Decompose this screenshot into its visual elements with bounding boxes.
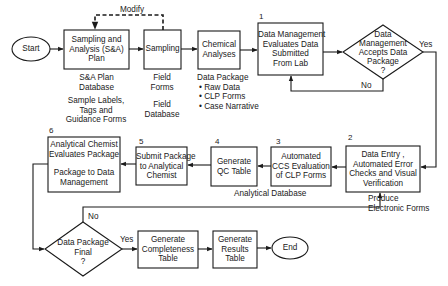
box5-label: Submit Package to Analytical Chemist [136, 152, 187, 181]
step-number-3: 3 [276, 137, 280, 146]
decision1-label: Data Management Accepts Data Package ? [343, 30, 423, 75]
sa-db-annotation: S&A Plan Database [64, 73, 129, 92]
box4-label: Generate QC Table [211, 157, 257, 176]
decision2-label: Data Package Final ? [45, 238, 121, 267]
box2-label: Data Entry , Automated Error Checks and … [346, 150, 420, 188]
sampling-label: Sampling [144, 44, 181, 54]
field-db-annotation: Field Database [140, 100, 184, 119]
no1-label: No [361, 81, 371, 91]
yes2-label: Yes [120, 235, 133, 245]
analytical-db-annotation: Analytical Database [234, 189, 306, 199]
yes1-label: Yes [419, 40, 432, 50]
completeness-label: Generate Completeness Table [138, 235, 198, 264]
box3-label: Automated CCS Evaluation of CLP Forms [271, 152, 331, 181]
box1-label: Data Management Evaluates Data Submitted… [258, 30, 323, 68]
step-number-6: 6 [49, 126, 53, 135]
data-package-annotation: Data Package • Raw Data • CLP Forms • Ca… [197, 73, 259, 111]
step-number-4: 4 [215, 137, 219, 146]
field-forms-annotation: Field Forms [140, 73, 184, 92]
modify-label: Modify [120, 5, 144, 15]
start-label: Start [12, 44, 50, 54]
end-label: End [272, 243, 308, 253]
results-label: Generate Results Table [213, 235, 257, 264]
step-number-5: 5 [139, 137, 143, 146]
sa-plan-label: Sampling and Analysis (S&A) Plan [64, 35, 129, 64]
chemical-label: Chemical Analyses [198, 40, 240, 59]
sample-labels-annotation: Sample Labels, Tags and Guidance Forms [60, 96, 132, 125]
step-number-1: 1 [259, 12, 263, 21]
no2-label: No [88, 212, 98, 222]
box6-label: Analytical Chemist Evaluates Package Pac… [48, 140, 120, 187]
step-number-2: 2 [348, 133, 352, 142]
produce-forms-annotation: Produce Electronic Forms [368, 194, 429, 213]
